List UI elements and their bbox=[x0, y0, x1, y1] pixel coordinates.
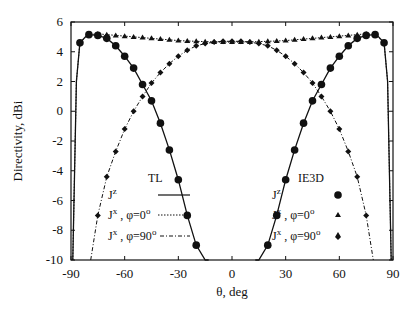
marker-diamond bbox=[292, 61, 298, 67]
marker-diamond bbox=[345, 148, 351, 154]
marker-triangle bbox=[149, 35, 155, 40]
marker-diamond bbox=[184, 47, 190, 53]
curves-layer bbox=[73, 34, 391, 260]
marker-triangle bbox=[184, 38, 190, 43]
marker-circle bbox=[148, 97, 156, 105]
marker-diamond bbox=[140, 93, 146, 99]
marker-circle bbox=[300, 119, 308, 127]
x-tick-label: 30 bbox=[279, 266, 292, 281]
y-tick-label: 2 bbox=[57, 74, 64, 89]
marker-triangle bbox=[265, 38, 271, 43]
legend-ie3d: IE3D Jz Jx , φ=0o Jx , φ=90o bbox=[272, 171, 342, 243]
marker-triangle bbox=[157, 36, 163, 41]
marker-diamond bbox=[113, 148, 119, 154]
marker-circle bbox=[166, 146, 174, 154]
marker-diamond bbox=[274, 47, 280, 53]
marker-circle bbox=[183, 212, 191, 220]
y-tick-label: -4 bbox=[52, 163, 63, 178]
directivity-chart: -90-60-300306090-10-8-6-4-20246 θ, deg D… bbox=[0, 0, 416, 314]
marker-diamond bbox=[310, 80, 316, 86]
x-tick-label: -30 bbox=[170, 266, 187, 281]
legend-triangle-marker bbox=[335, 212, 341, 217]
legend-ie3d-title: IE3D bbox=[298, 171, 324, 185]
marker-diamond bbox=[122, 126, 128, 132]
marker-diamond bbox=[104, 174, 110, 180]
marker-circle bbox=[309, 97, 317, 105]
legend-diamond-marker bbox=[335, 232, 341, 240]
y-axis-label: Directivity, dBi bbox=[10, 100, 25, 181]
marker-triangle bbox=[166, 37, 172, 42]
marker-diamond bbox=[327, 108, 333, 114]
x-axis-label: θ, deg bbox=[216, 284, 248, 299]
marker-diamond bbox=[318, 93, 324, 99]
marker-circle bbox=[157, 119, 165, 127]
marker-circle bbox=[318, 81, 326, 89]
marker-triangle bbox=[104, 32, 110, 37]
marker-triangle bbox=[292, 37, 298, 42]
marker-circle bbox=[336, 52, 344, 60]
legend-circle-marker bbox=[334, 191, 342, 199]
marker-circle bbox=[139, 81, 147, 89]
marker-circle bbox=[327, 64, 335, 72]
marker-diamond bbox=[175, 53, 181, 59]
marker-triangle bbox=[283, 38, 289, 43]
y-tick-label: -10 bbox=[46, 252, 63, 267]
y-tick-label: -2 bbox=[52, 133, 63, 148]
plot-frame bbox=[71, 22, 393, 260]
marker-triangle bbox=[354, 32, 360, 37]
marker-triangle bbox=[193, 38, 199, 43]
marker-circle bbox=[76, 39, 84, 47]
marker-diamond bbox=[193, 43, 199, 49]
marker-circle bbox=[264, 241, 272, 249]
x-tick-label: 60 bbox=[333, 266, 346, 281]
legend-ie3d-jx0: Jx , φ=0o bbox=[272, 206, 315, 222]
y-tick-label: 0 bbox=[57, 103, 64, 118]
legend-tl-jx0: Jx , φ=0o bbox=[108, 206, 151, 222]
marker-diamond bbox=[354, 174, 360, 180]
marker-circle bbox=[130, 64, 138, 72]
y-tick-label: -6 bbox=[52, 193, 63, 208]
marker-triangle bbox=[274, 38, 280, 43]
legend-tl-jz: Jz bbox=[108, 186, 117, 202]
x-tick-label: 0 bbox=[229, 266, 236, 281]
marker-diamond bbox=[95, 212, 101, 218]
marker-diamond bbox=[256, 41, 262, 47]
marker-circle bbox=[380, 39, 388, 47]
x-tick-label: 90 bbox=[387, 266, 400, 281]
marker-diamond bbox=[336, 126, 342, 132]
marker-triangle bbox=[301, 36, 307, 41]
y-tick-label: 6 bbox=[57, 14, 64, 29]
legend-ie3d-jx90: Jx , φ=90o bbox=[272, 227, 321, 243]
marker-circle bbox=[112, 42, 120, 50]
marker-triangle bbox=[140, 35, 146, 40]
legend-tl-title: TL bbox=[148, 171, 163, 185]
curve-solid bbox=[255, 35, 391, 260]
marker-triangle bbox=[175, 38, 181, 43]
marker-diamond bbox=[131, 108, 137, 114]
marker-diamond bbox=[363, 212, 369, 218]
marker-triangle bbox=[113, 32, 119, 37]
marker-circle bbox=[282, 176, 290, 184]
marker-diamond bbox=[265, 43, 271, 49]
x-tick-label: -60 bbox=[116, 266, 133, 281]
marker-triangle bbox=[310, 35, 316, 40]
marker-triangle bbox=[131, 34, 137, 39]
curve-dashed bbox=[91, 41, 374, 260]
marker-triangle bbox=[345, 32, 351, 37]
marker-triangle bbox=[122, 33, 128, 38]
y-tick-label: -8 bbox=[52, 222, 63, 237]
marker-diamond bbox=[211, 39, 217, 45]
marker-triangle bbox=[336, 33, 342, 38]
marker-circle bbox=[175, 176, 183, 184]
marker-circle bbox=[291, 146, 299, 154]
x-tick-label: -90 bbox=[62, 266, 79, 281]
y-tick-label: 4 bbox=[57, 44, 64, 59]
marker-diamond bbox=[247, 39, 253, 45]
marker-circle bbox=[344, 42, 352, 50]
marker-triangle bbox=[318, 35, 324, 40]
marker-circle bbox=[192, 241, 200, 249]
curve-dotted bbox=[73, 34, 391, 260]
curve-solid bbox=[73, 35, 209, 260]
marker-triangle bbox=[327, 34, 333, 39]
legend-tl-jx90: Jx , φ=90o bbox=[108, 227, 157, 243]
